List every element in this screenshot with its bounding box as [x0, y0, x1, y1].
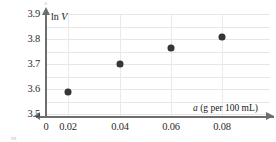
x-axis-title: a (g per 100 mL): [193, 104, 258, 114]
gridline-vertical-0.06: [171, 14, 172, 116]
y-axis-arrow-icon: [42, 7, 50, 15]
top-artifact-mark: a: [44, 0, 47, 7]
data-point: [168, 45, 174, 51]
y-axis-title-variable: V: [61, 11, 67, 22]
x-tick-label: 0.08: [206, 122, 238, 133]
gridline-horizontal-minor-1: [46, 27, 270, 28]
x-axis-title-units: (g per 100 mL): [198, 103, 258, 113]
y-tick-label: 3.5: [0, 109, 40, 120]
gridline-horizontal-3.7: [46, 64, 270, 65]
y-tick-label: 3.9: [0, 9, 40, 20]
data-point: [219, 34, 225, 40]
y-tick-labels: 3.9 3.8 3.7 3.6 3.5: [0, 0, 40, 142]
gridline-horizontal-3.8: [46, 39, 270, 40]
data-point: [65, 89, 71, 95]
x-axis-arrow-right-icon: [266, 112, 274, 120]
scatter-chart: a m 3.9 3.8 3.7 3.6 3.5 0 0.02 0.04 0.06…: [0, 0, 276, 142]
gridline-horizontal-3.6: [46, 89, 270, 90]
gridline-horizontal-minor-2: [46, 52, 270, 53]
y-tick-label: 3.6: [0, 84, 40, 95]
plot-area: [46, 14, 270, 116]
y-tick-label: 3.8: [0, 34, 40, 45]
x-tick-label: 0.04: [104, 122, 136, 133]
gridline-horizontal-minor-3: [46, 77, 270, 78]
y-tick-label: 3.7: [0, 59, 40, 70]
data-point: [117, 61, 123, 67]
gridline-horizontal-3.5: [46, 114, 270, 115]
y-axis-line: [45, 12, 47, 117]
gridline-horizontal-3.9: [46, 14, 270, 15]
x-axis-line: [36, 116, 274, 118]
gridline-vertical-0.08: [222, 14, 223, 116]
x-tick-label: 0.02: [52, 122, 84, 133]
y-axis-title-prefix: ln: [51, 11, 61, 22]
gridline-vertical-0.02: [68, 14, 69, 116]
x-tick-label: 0.06: [155, 122, 187, 133]
y-axis-title: ln V: [51, 12, 67, 22]
